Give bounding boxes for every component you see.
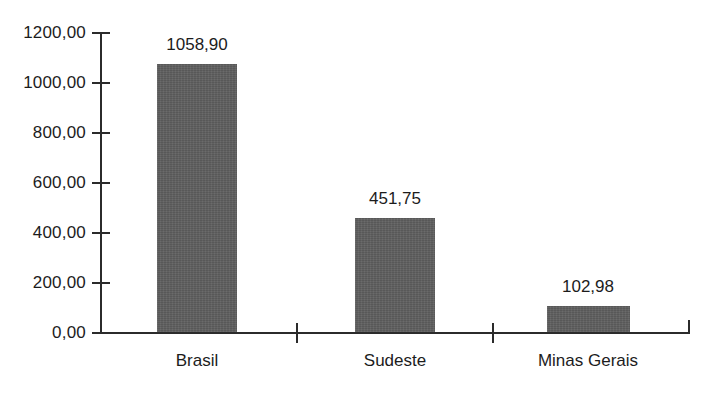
x-axis-tick [492,323,494,343]
y-axis-label: 200,00 [0,274,86,291]
bar-value-label: 1058,90 [137,36,257,53]
x-axis-line [100,332,690,334]
y-axis-tick [92,282,110,284]
x-axis-tick [296,323,298,343]
bar-value-label: 102,98 [528,278,648,295]
y-axis-label: 0,00 [0,324,86,341]
y-axis-label: 400,00 [0,224,86,241]
y-axis-tick [92,182,110,184]
y-axis-tick [92,82,110,84]
y-axis-label: 600,00 [0,174,86,191]
bar-sudeste [355,218,435,332]
y-axis-label: 1200,00 [0,24,86,41]
y-axis-tick [92,232,110,234]
bar-minas-gerais [547,306,630,332]
bar-chart: 1200,00 1000,00 800,00 600,00 400,00 200… [0,0,705,393]
y-axis-label: 1000,00 [0,74,86,91]
bar-value-label: 451,75 [335,190,455,207]
y-axis-tick [92,132,110,134]
y-axis-tick [92,32,110,34]
category-label-sudeste: Sudeste [335,352,455,369]
category-label-brasil: Brasil [137,352,257,369]
bar-brasil [157,64,237,332]
category-label-minas-gerais: Minas Gerais [513,352,663,369]
x-axis-end-tick [688,320,690,334]
y-axis-label: 800,00 [0,124,86,141]
